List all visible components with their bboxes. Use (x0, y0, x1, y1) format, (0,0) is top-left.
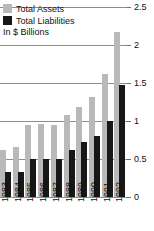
x-axis-tick-label: 1983 (0, 182, 11, 212)
x-axis-tick: 1990 (89, 198, 101, 231)
chart-legend: Total Assets Total Liabilities In $ Bill… (3, 3, 123, 38)
legend-label-total-liabilities: Total Liabilities (16, 16, 75, 26)
legend-item-total-assets: Total Assets (3, 3, 123, 14)
y-axis-tick-label: 0 (134, 192, 139, 202)
y-axis-tick-mark (127, 159, 131, 160)
bar-total-liabilities[interactable] (119, 85, 125, 197)
x-axis-tick-label: 1990 (89, 182, 100, 212)
y-axis-tick-mark (127, 121, 131, 122)
x-axis: 1983198419851986198719881989199019911992 (0, 198, 127, 231)
y-axis-tick-label: 1.5 (134, 78, 147, 88)
legend-item-total-liabilities: Total Liabilities (3, 15, 123, 26)
x-axis-tick-label: 1984 (13, 182, 24, 212)
x-axis-tick-label: 1986 (38, 182, 49, 212)
legend-label-total-assets: Total Assets (16, 4, 64, 14)
y-axis-tick: 2.5 (127, 2, 147, 12)
x-axis-tick: 1984 (13, 198, 25, 231)
y-axis-tick-mark (127, 197, 131, 198)
x-axis-tick: 1987 (51, 198, 63, 231)
x-axis-tick-label: 1987 (51, 182, 62, 212)
y-axis: 00.511.522.5 (127, 0, 154, 231)
x-axis-tick: 1985 (25, 198, 37, 231)
legend-swatch-total-liabilities (3, 16, 12, 25)
y-axis-tick: 0.5 (127, 154, 147, 164)
y-axis-tick-mark (127, 45, 131, 46)
x-axis-tick: 1988 (64, 198, 76, 231)
x-axis-tick: 1991 (102, 198, 114, 231)
x-axis-tick-label: 1991 (102, 182, 113, 212)
y-axis-tick-label: 2.5 (134, 2, 147, 12)
x-axis-tick-label: 1992 (114, 182, 125, 212)
y-axis-tick-mark (127, 7, 131, 8)
y-axis-tick-label: 1 (134, 116, 139, 126)
y-axis-tick-mark (127, 83, 131, 84)
y-axis-tick-label: 2 (134, 40, 139, 50)
x-axis-tick-label: 1989 (76, 182, 87, 212)
y-axis-tick-label: 0.5 (134, 154, 147, 164)
legend-swatch-total-assets (3, 4, 12, 13)
x-axis-tick: 1989 (76, 198, 88, 231)
y-axis-tick: 2 (127, 40, 139, 50)
bar-chart: Total Assets Total Liabilities In $ Bill… (0, 0, 154, 231)
x-axis-tick: 1986 (38, 198, 50, 231)
y-axis-tick: 0 (127, 192, 139, 202)
chart-units-note: In $ Billions (3, 27, 123, 38)
y-axis-tick: 1 (127, 116, 139, 126)
x-axis-tick: 1992 (114, 198, 126, 231)
x-axis-tick-label: 1985 (25, 182, 36, 212)
x-axis-tick-label: 1988 (64, 182, 75, 212)
x-axis-tick: 1983 (0, 198, 12, 231)
y-axis-tick: 1.5 (127, 78, 147, 88)
